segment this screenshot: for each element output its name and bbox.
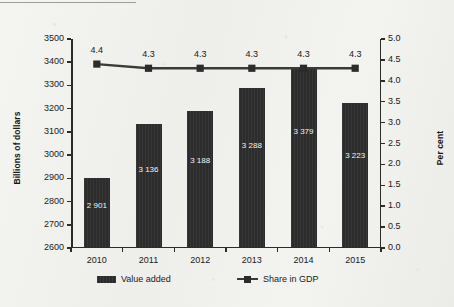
- y-axis-right-tick-label: 5.0: [388, 34, 401, 43]
- line-value-label: 4.3: [349, 49, 362, 59]
- line-value-label: 4.3: [142, 49, 155, 59]
- y-axis-right-tick-label: 2.0: [388, 159, 401, 168]
- combo-chart: Billions of dollars Per cent 26002700280…: [0, 0, 454, 307]
- y-axis-left-tick-label: 3000: [44, 150, 64, 159]
- y-axis-right-tick: [381, 226, 385, 228]
- y-axis-right-tick: [381, 164, 385, 166]
- x-axis-tick: [70, 248, 72, 252]
- y-axis-left-tick-label: 2800: [44, 197, 64, 206]
- y-axis-right-tick-label: 0.0: [388, 243, 401, 252]
- y-axis-right-tick: [381, 38, 385, 40]
- x-axis-category-label: 2014: [293, 255, 313, 265]
- line-marker: [93, 60, 100, 67]
- y-axis-left-tick-label: 3400: [44, 57, 64, 66]
- y-axis-right-tick-label: 4.0: [388, 76, 401, 85]
- y-axis-right-tick-label: 0.5: [388, 222, 401, 231]
- legend-item-share-in-gdp: Share in GDP: [237, 274, 319, 284]
- y-axis-right-tick: [381, 185, 385, 187]
- line-marker: [248, 65, 255, 72]
- y-axis-left-tick-label: 3200: [44, 104, 64, 113]
- legend-label-share-in-gdp: Share in GDP: [263, 274, 319, 284]
- y-axis-left-tick-label: 3300: [44, 80, 64, 89]
- line-marker: [352, 65, 359, 72]
- line-marker: [197, 65, 204, 72]
- x-axis-category-label: 2015: [345, 255, 365, 265]
- y-axis-right-tick-label: 4.5: [388, 55, 401, 64]
- x-axis-tick: [329, 248, 331, 252]
- line-series: [71, 39, 381, 248]
- y-axis-right-tick-label: 1.5: [388, 180, 401, 189]
- x-axis-category-label: 2013: [242, 255, 262, 265]
- line-marker: [300, 65, 307, 72]
- x-axis-category-label: 2011: [139, 255, 158, 265]
- line-value-label: 4.3: [246, 49, 259, 59]
- y-axis-right-tick-label: 3.5: [388, 97, 401, 106]
- y-axis-left-tick-label: 2900: [44, 173, 64, 182]
- y-axis-left-tick-label: 3500: [44, 34, 64, 43]
- y-axis-right-tick-label: 3.0: [388, 118, 401, 127]
- y-axis-left-title: Billions of dollars: [12, 98, 22, 198]
- legend-item-value-added: Value added: [97, 274, 171, 284]
- x-axis-tick: [174, 248, 176, 252]
- y-axis-left-tick-label: 2600: [44, 243, 64, 252]
- line-value-label: 4.3: [297, 49, 310, 59]
- y-axis-left-tick-label: 3100: [44, 127, 64, 136]
- x-axis-tick: [380, 248, 382, 252]
- line-path: [97, 64, 355, 68]
- y-axis-right-tick: [381, 205, 385, 207]
- x-axis-tick: [277, 248, 279, 252]
- legend-label-value-added: Value added: [121, 274, 171, 284]
- x-axis-tick: [225, 248, 227, 252]
- y-axis-right-tick: [381, 59, 385, 61]
- legend-bar-swatch-icon: [97, 276, 116, 283]
- y-axis-right-tick: [381, 101, 385, 103]
- plot-area: 2600270028002900300031003200330034003500…: [71, 39, 381, 248]
- y-axis-right-tick-label: 2.5: [388, 139, 401, 148]
- y-axis-right-tick: [381, 80, 385, 82]
- line-value-label: 4.3: [194, 49, 207, 59]
- y-axis-right-tick-label: 1.0: [388, 201, 401, 210]
- x-axis-category-label: 2012: [190, 255, 210, 265]
- x-axis-category-label: 2010: [87, 255, 107, 265]
- y-axis-right-tick: [381, 143, 385, 145]
- y-axis-right-tick: [381, 122, 385, 124]
- line-value-label: 4.4: [91, 45, 104, 55]
- y-axis-right-title: Per cent: [435, 98, 445, 198]
- x-axis-tick: [122, 248, 124, 252]
- y-axis-left-tick-label: 2700: [44, 220, 64, 229]
- line-marker: [145, 65, 152, 72]
- legend-line-swatch-icon: [237, 276, 258, 283]
- chart-legend: Value added Share in GDP: [71, 274, 381, 290]
